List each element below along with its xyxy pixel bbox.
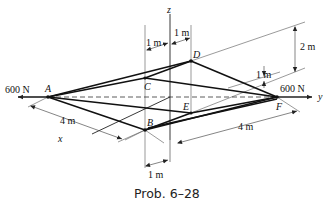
dim-label-right-1m: 1 m: [256, 69, 272, 80]
point-label-e: E: [182, 101, 189, 112]
joint-e: [189, 111, 192, 114]
axis-label-y: y: [317, 91, 323, 102]
joint-f: [275, 95, 279, 99]
load-label-right: 600 N: [280, 83, 305, 94]
dim-label-bottom-4m: 4 m: [238, 121, 254, 132]
axis-label-z: z: [166, 4, 171, 15]
dim-label-left-4m: 4 m: [60, 115, 76, 126]
dimension-lines: [31, 27, 297, 166]
point-label-a: A: [44, 83, 52, 94]
joint-a: [46, 95, 50, 99]
load-label-left: 600 N: [5, 84, 30, 95]
dim-label-2m: 2 m: [300, 41, 316, 52]
axis-label-x: x: [57, 133, 63, 144]
point-label-d: D: [192, 49, 201, 60]
joint-c: [143, 76, 146, 79]
figure-caption: Prob. 6–28: [134, 186, 200, 201]
point-label-c: C: [144, 81, 151, 92]
dim-label-bottom-1m: 1 m: [148, 169, 164, 180]
point-label-b: B: [147, 117, 153, 128]
dim-label-top-right: 1 m: [174, 27, 190, 38]
joint-b: [143, 128, 147, 132]
point-label-f: F: [275, 101, 283, 112]
truss-diagram: 600 N 600 N A C D B E F z y x 1 m 1 m 2 …: [0, 0, 330, 202]
truss-members: [48, 61, 277, 130]
dim-label-top-left: 1 m: [146, 37, 162, 48]
